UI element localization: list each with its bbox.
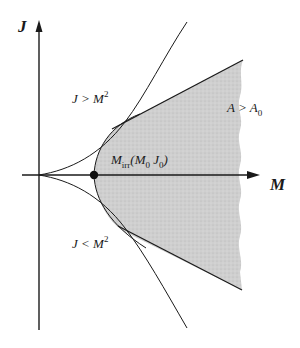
upper-region-label: J > M2 xyxy=(72,89,108,106)
lower-region-label: J < M2 xyxy=(72,234,108,251)
phase-diagram: J M J > M2 J < M2 A > A0 Mirr(M0 J0) xyxy=(0,0,300,348)
m-axis-arrowhead xyxy=(247,171,260,179)
m-axis-label: M xyxy=(269,175,286,194)
j-axis-label: J xyxy=(17,17,27,36)
j-axis-arrowhead xyxy=(36,20,43,32)
irreducible-mass-point xyxy=(90,171,98,179)
